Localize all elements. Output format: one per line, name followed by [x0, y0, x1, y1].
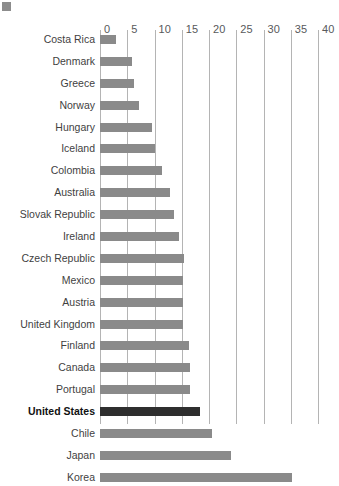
- bar: [100, 144, 155, 153]
- bar-row: Slovak Republic: [0, 205, 339, 227]
- category-label: Australia: [54, 185, 95, 199]
- bar-row: Canada: [0, 358, 339, 380]
- bar-row: Norway: [0, 96, 339, 118]
- category-label: Korea: [67, 470, 95, 484]
- bar: [100, 407, 200, 416]
- category-label: Slovak Republic: [20, 207, 95, 221]
- bar-row: Costa Rica: [0, 30, 339, 52]
- category-label: United Kingdom: [20, 317, 95, 331]
- bar-row: Greece: [0, 74, 339, 96]
- bar-row: Czech Republic: [0, 249, 339, 271]
- bar: [100, 298, 183, 307]
- bar: [100, 429, 212, 438]
- bar: [100, 254, 184, 263]
- bar: [100, 341, 189, 350]
- category-label: Finland: [61, 338, 95, 352]
- bar: [100, 363, 190, 372]
- category-label: Canada: [58, 360, 95, 374]
- bar-rows: Costa RicaDenmarkGreeceNorwayHungaryIcel…: [0, 30, 339, 486]
- category-label: Czech Republic: [21, 251, 95, 265]
- bar: [100, 166, 162, 175]
- category-label: Ireland: [63, 229, 95, 243]
- bar-row: Ireland: [0, 227, 339, 249]
- bar-row: Colombia: [0, 161, 339, 183]
- bar-row: United States: [0, 402, 339, 424]
- bar: [100, 320, 183, 329]
- category-label: Colombia: [51, 163, 95, 177]
- bar-row: Hungary: [0, 118, 339, 140]
- bar: [100, 451, 231, 460]
- bar: [100, 473, 292, 482]
- category-label: Costa Rica: [44, 32, 95, 46]
- bar-row: United Kingdom: [0, 315, 339, 337]
- bar: [100, 385, 190, 394]
- bar-row: Chile: [0, 424, 339, 446]
- category-label: Chile: [71, 426, 95, 440]
- bar-row: Australia: [0, 183, 339, 205]
- bar: [100, 188, 170, 197]
- category-label: Norway: [59, 98, 95, 112]
- bar: [100, 79, 134, 88]
- bar-row: Denmark: [0, 52, 339, 74]
- category-label: United States: [28, 404, 95, 418]
- bar-row: Korea: [0, 468, 339, 486]
- category-label: Hungary: [55, 120, 95, 134]
- category-label: Iceland: [61, 141, 95, 155]
- bar: [100, 123, 152, 132]
- category-label: Japan: [66, 448, 95, 462]
- bar-row: Mexico: [0, 271, 339, 293]
- bar: [100, 35, 116, 44]
- bar: [100, 57, 132, 66]
- bar: [100, 232, 179, 241]
- category-label: Austria: [62, 295, 95, 309]
- bar: [100, 276, 183, 285]
- bar: [100, 210, 174, 219]
- category-label: Mexico: [62, 273, 95, 287]
- bar-row: Iceland: [0, 139, 339, 161]
- bar-row: Portugal: [0, 380, 339, 402]
- bar: [100, 101, 139, 110]
- bar-row: Austria: [0, 293, 339, 315]
- category-label: Greece: [61, 76, 95, 90]
- bar-row: Finland: [0, 336, 339, 358]
- category-label: Denmark: [52, 54, 95, 68]
- category-label: Portugal: [56, 382, 95, 396]
- bar-row: Japan: [0, 446, 339, 468]
